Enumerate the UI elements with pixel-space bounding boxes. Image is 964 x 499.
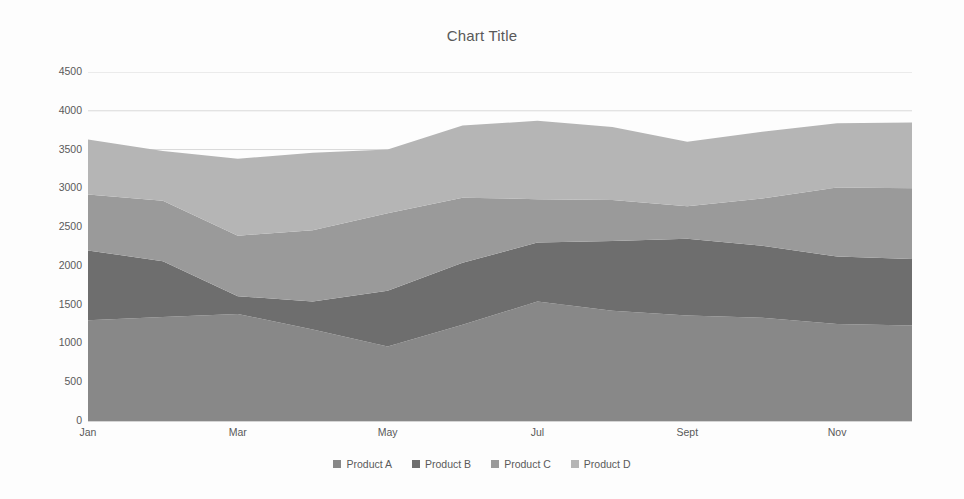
y-axis-tick-label: 500 [38, 376, 82, 387]
legend-item[interactable]: Product B [412, 459, 471, 470]
legend-swatch-icon [571, 460, 579, 468]
legend-label: Product D [584, 459, 631, 470]
legend-label: Product C [504, 459, 551, 470]
y-axis-tick-label: 1500 [38, 299, 82, 310]
legend-swatch-icon [333, 460, 341, 468]
x-axis-tick-label: Mar [229, 427, 247, 438]
y-axis-tick-label: 2000 [38, 260, 82, 271]
legend-label: Product A [346, 459, 392, 470]
x-axis-tick-label: May [378, 427, 398, 438]
chart-container: Chart Title 0500100015002000250030003500… [0, 0, 964, 499]
legend-label: Product B [425, 459, 471, 470]
y-axis-tick-label: 4000 [38, 105, 82, 116]
x-axis-tick-label: Sept [676, 427, 698, 438]
legend-swatch-icon [491, 460, 499, 468]
legend-swatch-icon [412, 460, 420, 468]
y-axis-tick-label: 2500 [38, 221, 82, 232]
legend-item[interactable]: Product A [333, 459, 392, 470]
legend-item[interactable]: Product D [571, 459, 631, 470]
x-axis-line [88, 421, 912, 422]
y-axis-tick-label: 0 [38, 415, 82, 426]
legend-item[interactable]: Product C [491, 459, 551, 470]
x-axis: JanMarMayJulSeptNov [88, 427, 912, 445]
y-axis-tick-label: 3000 [38, 182, 82, 193]
y-axis: 050010001500200025003000350040004500 [32, 0, 82, 499]
x-axis-tick-label: Jan [80, 427, 97, 438]
x-axis-tick-label: Nov [828, 427, 847, 438]
y-axis-tick-label: 3500 [38, 144, 82, 155]
plot-area [88, 72, 912, 421]
chart-title: Chart Title [0, 27, 964, 44]
y-axis-tick-label: 4500 [38, 66, 82, 77]
x-axis-tick-label: Jul [531, 427, 544, 438]
chart-legend: Product AProduct BProduct CProduct D [0, 459, 964, 470]
y-axis-tick-label: 1000 [38, 337, 82, 348]
stacked-area-svg [88, 72, 912, 421]
